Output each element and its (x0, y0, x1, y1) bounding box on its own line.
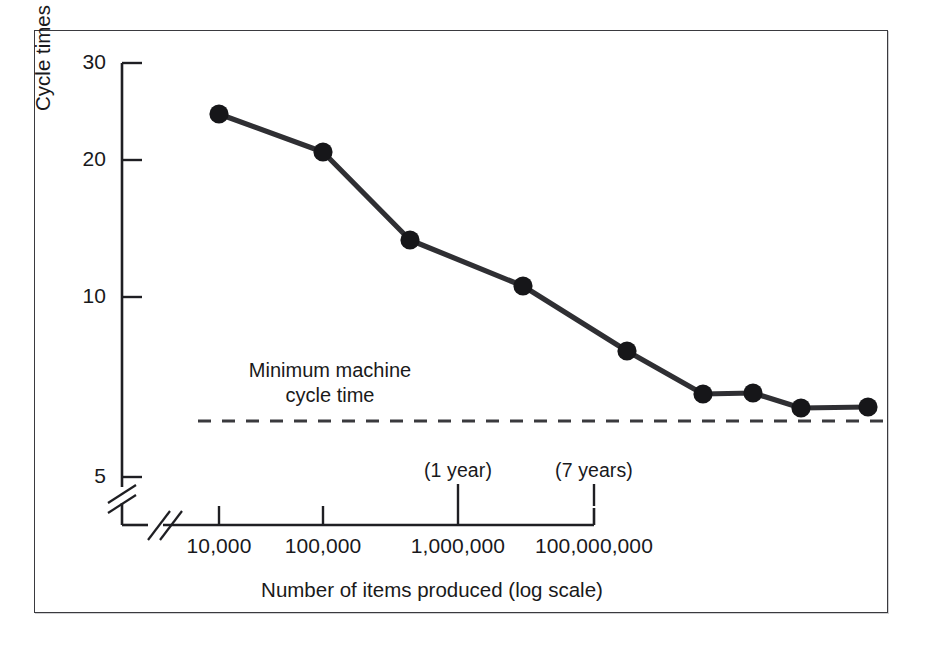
annotation-min-cycle-time-line2: cycle time (175, 383, 485, 408)
y-tick-label-10: 10 (50, 284, 106, 308)
x-axis-title: Number of items produced (log scale) (122, 578, 742, 602)
annotation-7-years: (7 years) (494, 459, 694, 482)
annotation-min-cycle-time: Minimum machine cycle time (175, 358, 485, 408)
figure-canvas: 30 20 10 5 10,000 100,000 1,000,000 100,… (0, 0, 926, 652)
y-tick-label-5: 5 (50, 464, 106, 488)
y-tick-label-20: 20 (50, 147, 106, 171)
annotation-min-cycle-time-line1: Minimum machine (249, 359, 411, 381)
y-axis-title: Cycle times (seconds, log scale) (26, 0, 60, 134)
x-tick-label-100000000: 100,000,000 (484, 534, 704, 558)
figure-frame (34, 30, 888, 613)
